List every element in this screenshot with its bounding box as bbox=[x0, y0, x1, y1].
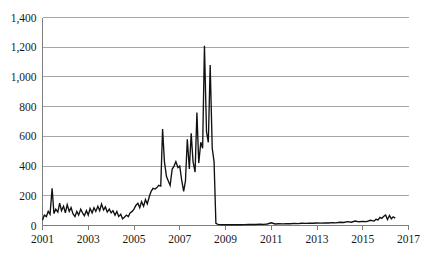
x-axis-tick-label: 2013 bbox=[306, 233, 329, 245]
x-axis-tick-label: 2003 bbox=[77, 233, 100, 245]
x-axis-tick-label: 2009 bbox=[214, 233, 237, 245]
y-axis-tick-label: 1,200 bbox=[11, 41, 37, 54]
x-axis-tick-label: 2011 bbox=[260, 233, 283, 245]
y-axis-tick-label: 0 bbox=[31, 220, 37, 232]
y-axis-tick-label: 800 bbox=[19, 101, 37, 113]
y-axis-tick-label: 1,000 bbox=[11, 71, 37, 84]
y-axis-tick-label: 400 bbox=[19, 160, 37, 172]
y-axis-tick-label: 1,400 bbox=[11, 12, 37, 25]
y-axis-tick-label: 200 bbox=[19, 190, 37, 202]
x-axis-tick-label: 2005 bbox=[123, 233, 146, 245]
x-axis-tick-label: 2017 bbox=[397, 233, 420, 245]
line-chart: 02004006008001,0001,2001,400 20012003200… bbox=[0, 0, 431, 259]
y-axis-tick-label: 600 bbox=[19, 130, 37, 142]
x-axis-tick-label: 2015 bbox=[351, 233, 374, 245]
x-axis-tick-label: 2007 bbox=[168, 233, 191, 245]
x-axis-tick-labels: 200120032005200720092011201320152017 bbox=[31, 233, 420, 245]
x-axis-tick-label: 2001 bbox=[31, 233, 54, 245]
chart-container: 02004006008001,0001,2001,400 20012003200… bbox=[0, 0, 431, 259]
